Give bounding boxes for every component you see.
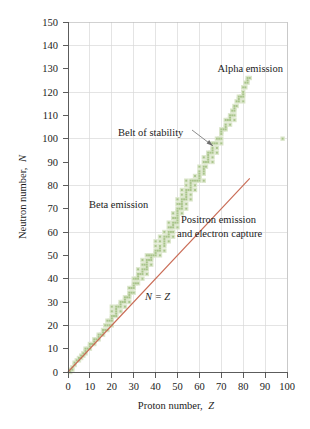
belt-point <box>146 261 148 263</box>
belt-point <box>148 259 150 261</box>
belt-point <box>172 217 174 219</box>
x-tick-label-60: 60 <box>194 381 205 392</box>
belt-point <box>128 294 130 296</box>
belt-point <box>220 133 222 135</box>
belt-point <box>205 166 207 168</box>
belt-point <box>152 254 154 256</box>
belt-point <box>159 250 161 252</box>
belt-point <box>207 159 209 161</box>
x-tick-label-40: 40 <box>150 381 161 392</box>
belt-point <box>93 338 95 340</box>
belt-point <box>120 310 122 312</box>
belt-point <box>172 212 174 214</box>
y-tick-label-90: 90 <box>48 157 59 168</box>
belt-point <box>71 369 73 371</box>
belt-point <box>212 142 214 144</box>
x-tick-label-0: 0 <box>65 381 70 392</box>
belt-point <box>242 86 244 88</box>
belt-point <box>124 306 126 308</box>
belt-point <box>225 126 227 128</box>
belt-point <box>190 187 192 189</box>
belt-point <box>207 154 209 156</box>
belt-point <box>185 189 187 191</box>
belt-point <box>177 203 179 205</box>
x-tick-label-100: 100 <box>279 381 295 392</box>
belt-point <box>177 217 179 219</box>
belt-point <box>139 273 141 275</box>
belt-point <box>89 343 91 345</box>
belt-point <box>102 329 104 331</box>
belt-point <box>135 282 137 284</box>
belt-point <box>155 240 157 242</box>
x-tick-label-10: 10 <box>85 381 96 392</box>
belt-point <box>124 301 126 303</box>
belt-point <box>233 107 235 109</box>
belt-point <box>111 310 113 312</box>
belt-point <box>238 98 240 100</box>
belt-point <box>100 334 102 336</box>
belt-point <box>207 161 209 163</box>
belt-point <box>181 205 183 207</box>
belt-point <box>85 348 87 350</box>
belt-point <box>142 259 144 261</box>
plot-svg: 0102030405060708090100110120130140150 01… <box>0 0 310 429</box>
belt-point <box>172 224 174 226</box>
belt-point <box>185 208 187 210</box>
belt-point <box>247 79 249 81</box>
x-tick-label-70: 70 <box>216 381 227 392</box>
x-tick-label-80: 80 <box>238 381 249 392</box>
belt-point <box>190 180 192 182</box>
belt-point <box>207 152 209 154</box>
belt-point <box>233 114 235 116</box>
belt-point <box>229 119 231 121</box>
belt-point <box>207 156 209 158</box>
y-axis-title-symbol: N <box>17 154 28 163</box>
belt-point <box>194 180 196 182</box>
belt-point <box>133 285 135 287</box>
x-tick-label-30: 30 <box>128 381 139 392</box>
belt-point <box>133 287 135 289</box>
belt-point <box>150 257 152 259</box>
belt-point <box>242 91 244 93</box>
belt-point <box>146 264 148 266</box>
y-tick-label-150: 150 <box>42 17 58 28</box>
belt-point <box>198 173 200 175</box>
belt-point <box>170 226 172 228</box>
belt-point <box>177 198 179 200</box>
belt-point <box>142 268 144 270</box>
belt-point <box>137 275 139 277</box>
belt-point <box>76 359 78 361</box>
belt-point <box>150 264 152 266</box>
belt-point <box>150 254 152 256</box>
belt-point <box>163 240 165 242</box>
belt-point <box>247 77 249 79</box>
belt-point <box>163 243 165 245</box>
belt-point <box>111 317 113 319</box>
belt-point <box>89 345 91 347</box>
belt-point <box>220 131 222 133</box>
belt-point <box>205 161 207 163</box>
belt-point <box>282 138 284 140</box>
belt-point <box>142 264 144 266</box>
belt-point <box>181 194 183 196</box>
belt-point <box>137 282 139 284</box>
belt-point <box>155 250 157 252</box>
belt-point <box>142 278 144 280</box>
belt-point <box>163 238 165 240</box>
belt-point <box>216 152 218 154</box>
belt-point <box>146 266 148 268</box>
belt-point <box>96 338 98 340</box>
belt-point <box>185 203 187 205</box>
belt-point <box>238 100 240 102</box>
belt-point <box>203 180 205 182</box>
y-axis-tick-labels: 0102030405060708090100110120130140150 <box>42 17 58 378</box>
belt-point <box>113 315 115 317</box>
y-tick-label-40: 40 <box>48 273 59 284</box>
alpha-emission-label: Alpha emission <box>217 63 283 74</box>
belt-point <box>177 212 179 214</box>
belt-point <box>131 287 133 289</box>
belt-point <box>233 110 235 112</box>
belt-point <box>117 306 119 308</box>
belt-point <box>168 240 170 242</box>
belt-point <box>216 138 218 140</box>
